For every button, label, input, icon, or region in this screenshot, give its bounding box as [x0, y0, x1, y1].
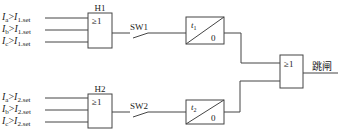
timer-t1-return: 0 — [211, 33, 216, 43]
protection-logic-diagram: Ia>I1.set Ib>I1.set Ic>I1.set H1 ≥1 SW1 … — [0, 0, 340, 139]
switch-sw2-label: SW2 — [130, 101, 148, 111]
lower-branch: Ia>I2.set Ib>I2.set Ic>I2.set H2 ≥1 SW2 … — [1, 81, 280, 128]
gate-h2-name: H2 — [95, 84, 106, 94]
gate-h2-symbol: ≥1 — [92, 97, 101, 107]
gate-h1-name: H1 — [95, 3, 106, 13]
switch-sw1-blade — [133, 33, 148, 38]
input-label-ic-1: Ic>I1.set — [1, 35, 31, 48]
wire-timer2-or — [224, 81, 280, 112]
gate-h1-symbol: ≥1 — [92, 16, 101, 26]
output-stage: ≥1 跳闸 — [280, 55, 338, 88]
switch-sw2-blade — [133, 112, 148, 117]
output-gate-symbol: ≥1 — [284, 59, 293, 69]
switch-sw1-label: SW1 — [130, 22, 148, 32]
trip-output-label: 跳闸 — [312, 60, 332, 72]
input-label-ic-2: Ic>I2.set — [1, 115, 31, 128]
wire-timer1-or — [224, 33, 280, 63]
upper-branch: Ia>I1.set Ib>I1.set Ic>I1.set H1 ≥1 SW1 … — [1, 3, 280, 63]
timer-t2-return: 0 — [211, 113, 216, 123]
